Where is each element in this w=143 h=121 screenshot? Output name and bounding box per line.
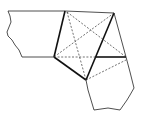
thick-edge-A-F (54, 57, 86, 80)
top-edge (65, 11, 114, 13)
dashed-diagonal-B-F (67, 12, 86, 80)
dashed-line-F-D (86, 60, 126, 80)
dashed-diagonal-B-D (67, 12, 126, 57)
right-edge (114, 13, 126, 57)
bottom-fragment (86, 57, 134, 110)
thick-edge-C-F (86, 13, 114, 80)
tiling-diagram (0, 0, 143, 121)
